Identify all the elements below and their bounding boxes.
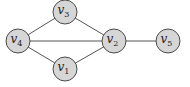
node-v3: v3 (53, 0, 77, 24)
node-v1: v1 (53, 57, 77, 81)
node-v5: v5 (156, 29, 180, 53)
node-v2: v2 (102, 29, 126, 53)
graph-diagram: v1v2v3v4v5 (0, 0, 190, 87)
node-v4: v4 (6, 29, 30, 53)
edge-layer (18, 12, 168, 69)
